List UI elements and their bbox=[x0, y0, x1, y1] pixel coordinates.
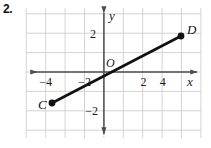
y-tick-label-neg2: −2 bbox=[85, 104, 98, 118]
point-c bbox=[49, 100, 56, 107]
y-axis-label: y bbox=[107, 8, 115, 23]
point-label-d: D bbox=[186, 22, 197, 37]
coordinate-plane-figure: 2. bbox=[0, 0, 211, 148]
x-tick-label-pos2: 2 bbox=[141, 75, 147, 89]
x-tick-label-neg4: −4 bbox=[39, 75, 52, 89]
point-label-c: C bbox=[38, 97, 47, 112]
problem-number: 2. bbox=[3, 2, 12, 16]
x-tick-label-neg2: −2 bbox=[78, 75, 91, 89]
y-tick-label-pos2: 2 bbox=[90, 27, 96, 41]
segment-cd bbox=[52, 36, 181, 103]
origin-label: O bbox=[106, 56, 115, 70]
graph-canvas: C D O −4 −2 2 4 2 −2 x y bbox=[0, 0, 211, 148]
x-tick-label-pos4: 4 bbox=[160, 75, 166, 89]
grid-lines bbox=[26, 8, 201, 138]
point-d bbox=[178, 33, 185, 40]
x-axis-label: x bbox=[186, 74, 193, 89]
